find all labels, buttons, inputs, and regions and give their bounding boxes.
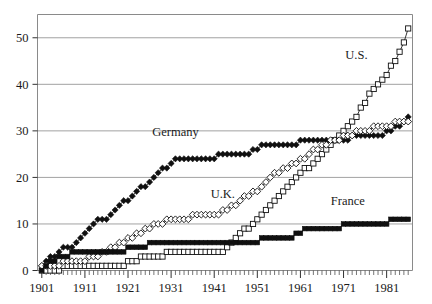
marker-france [363, 222, 368, 227]
marker-france [74, 250, 79, 255]
marker-france [290, 236, 295, 241]
marker-france [402, 217, 407, 222]
marker-france [190, 240, 195, 245]
marker-us [384, 72, 389, 77]
marker-france [121, 250, 126, 255]
marker-france [40, 268, 45, 273]
marker-france [165, 240, 170, 245]
marker-france [229, 240, 234, 245]
line-chart: 0102030405019011911192119311941195119611… [0, 0, 432, 304]
marker-france [346, 222, 351, 227]
marker-france [61, 254, 66, 259]
series-label-france: France [331, 194, 365, 208]
marker-france [117, 250, 122, 255]
marker-france [406, 217, 411, 222]
marker-france [302, 226, 307, 231]
marker-france [139, 245, 144, 250]
marker-france [255, 240, 260, 245]
x-tick-label-1911: 1911 [73, 281, 98, 295]
marker-france [264, 236, 269, 241]
marker-france [130, 245, 135, 250]
marker-france [177, 240, 182, 245]
marker-france [96, 250, 101, 255]
marker-france [156, 240, 161, 245]
x-tick-label-1901: 1901 [29, 281, 54, 295]
marker-france [134, 245, 139, 250]
marker-france [320, 226, 325, 231]
chart-container: 0102030405019011911192119311941195119611… [0, 0, 432, 304]
marker-france [169, 240, 174, 245]
y-tick-label-50: 50 [16, 31, 29, 45]
x-tick-label-1961: 1961 [288, 281, 313, 295]
marker-france [65, 254, 70, 259]
marker-france [315, 226, 320, 231]
y-tick-label-10: 10 [16, 217, 29, 231]
marker-france [358, 222, 363, 227]
marker-france [87, 250, 92, 255]
marker-france [212, 240, 217, 245]
series-label-uk: U.K. [211, 187, 235, 201]
x-tick-label-1981: 1981 [374, 281, 399, 295]
marker-france [251, 240, 256, 245]
marker-france [272, 236, 277, 241]
marker-us [406, 26, 411, 31]
y-tick-label-20: 20 [16, 171, 29, 185]
marker-france [126, 245, 131, 250]
marker-france [48, 259, 53, 264]
marker-france [57, 254, 62, 259]
marker-france [216, 240, 221, 245]
marker-france [100, 250, 105, 255]
marker-france [324, 226, 329, 231]
marker-france [203, 240, 208, 245]
marker-france [285, 236, 290, 241]
marker-france [277, 236, 282, 241]
marker-france [108, 250, 113, 255]
marker-france [298, 231, 303, 236]
marker-france [350, 222, 355, 227]
marker-france [195, 240, 200, 245]
marker-france [113, 250, 118, 255]
marker-us [362, 100, 367, 105]
marker-france [246, 240, 251, 245]
x-tick-label-1941: 1941 [202, 281, 227, 295]
marker-france [259, 236, 264, 241]
marker-france [376, 222, 381, 227]
marker-france [328, 226, 333, 231]
marker-france [199, 240, 204, 245]
marker-france [225, 240, 230, 245]
series-label-germany: Germany [152, 125, 199, 139]
marker-us [401, 40, 406, 45]
x-tick-label-1971: 1971 [331, 281, 356, 295]
marker-france [397, 217, 402, 222]
series-line-us [42, 28, 408, 270]
marker-france [380, 222, 385, 227]
marker-france [70, 250, 75, 255]
marker-france [208, 240, 213, 245]
marker-us [393, 58, 398, 63]
marker-france [337, 226, 342, 231]
marker-france [371, 222, 376, 227]
marker-france [160, 240, 165, 245]
marker-france [104, 250, 109, 255]
marker-france [44, 264, 49, 269]
y-tick-label-30: 30 [16, 124, 29, 138]
marker-us [397, 49, 402, 54]
marker-france [52, 259, 57, 264]
marker-france [294, 231, 299, 236]
x-tick-label-1921: 1921 [116, 281, 141, 295]
marker-us [354, 114, 359, 119]
marker-france [233, 240, 238, 245]
marker-france [152, 240, 157, 245]
marker-france [367, 222, 372, 227]
marker-france [341, 222, 346, 227]
marker-france [281, 236, 286, 241]
marker-france [221, 240, 226, 245]
marker-france [78, 250, 83, 255]
marker-france [307, 226, 312, 231]
marker-france [393, 217, 398, 222]
marker-france [186, 240, 191, 245]
marker-france [143, 245, 148, 250]
marker-france [384, 222, 389, 227]
marker-france [83, 250, 88, 255]
marker-france [182, 240, 187, 245]
